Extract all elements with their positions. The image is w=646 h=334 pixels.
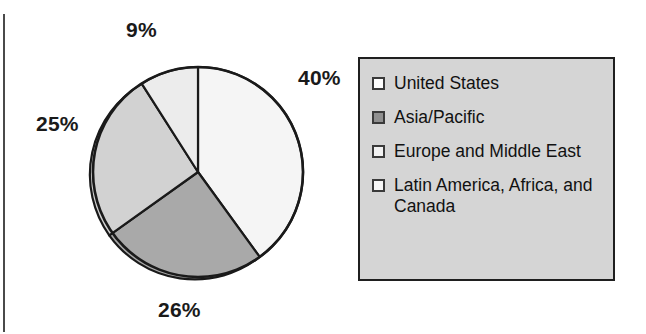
legend-label-latin-america-africa-canada: Latin America, Africa, and Canada (394, 175, 599, 217)
legend-swatch-icon-latin-america-africa-canada (372, 179, 385, 192)
pie-chart-svg (0, 0, 350, 334)
legend-swatch-icon-asia-pacific (372, 111, 385, 124)
legend-item-latin-america-africa-canada: Latin America, Africa, and Canada (372, 175, 603, 217)
pie-label-europe-middle-east: 25% (36, 112, 79, 136)
legend-swatch-icon-united-states (372, 77, 385, 90)
pie-chart: 9% 40% 25% 26% (0, 0, 350, 334)
pie-label-united-states: 40% (298, 66, 341, 90)
chart-legend: United States Asia/Pacific Europe and Mi… (358, 57, 615, 281)
legend-item-asia-pacific: Asia/Pacific (372, 107, 603, 128)
legend-label-europe-middle-east: Europe and Middle East (394, 141, 581, 162)
legend-item-united-states: United States (372, 73, 603, 94)
legend-item-europe-middle-east: Europe and Middle East (372, 141, 603, 162)
legend-label-asia-pacific: Asia/Pacific (394, 107, 484, 128)
legend-label-united-states: United States (394, 73, 499, 94)
pie-label-asia-pacific: 26% (158, 298, 201, 322)
legend-swatch-icon-europe-middle-east (372, 145, 385, 158)
pie-label-latin-america-africa-canada: 9% (126, 18, 157, 42)
